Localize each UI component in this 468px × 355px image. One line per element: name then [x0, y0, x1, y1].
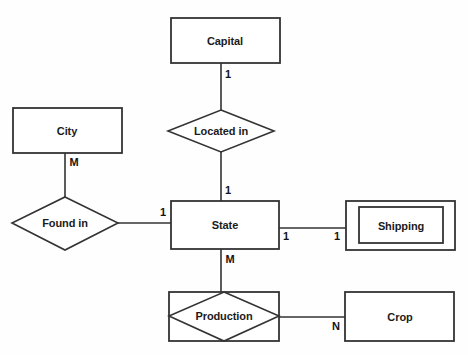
entity-shipping-group[interactable]: [346, 201, 455, 250]
entity-capital-box[interactable]: [171, 18, 280, 63]
relationship-found-in-diamond[interactable]: [12, 197, 118, 250]
entity-shipping-inner-box: [359, 207, 443, 243]
entity-crop-box[interactable]: [345, 292, 454, 341]
cardinality-located-in-state: 1: [225, 184, 231, 196]
entity-state-box[interactable]: [171, 201, 279, 249]
cardinality-production-crop: N: [332, 320, 340, 332]
relationship-located-in-diamond[interactable]: [168, 110, 274, 152]
cardinality-state-shipping-far: 1: [334, 230, 340, 242]
er-diagram-svg: [0, 0, 468, 355]
connector-layer: [65, 63, 347, 317]
entity-city-box[interactable]: [13, 108, 122, 153]
cardinality-state-production: M: [225, 253, 234, 265]
cardinality-city-found-in: M: [69, 156, 78, 168]
cardinality-found-in-state: 1: [160, 206, 166, 218]
cardinality-state-shipping-near: 1: [283, 230, 289, 242]
relationship-production-group[interactable]: [169, 292, 279, 341]
er-diagram-canvas: Capital City State Shipping Crop Located…: [0, 0, 468, 355]
cardinality-capital-located-in: 1: [225, 68, 231, 80]
